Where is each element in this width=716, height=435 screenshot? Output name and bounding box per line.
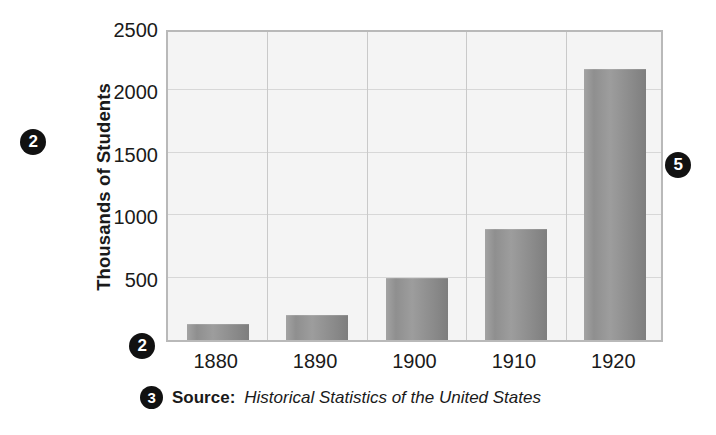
callout-badge-2-axis-title: 2 [20,129,46,155]
y-tick-1500: 1500 [94,143,158,166]
bar-1900 [386,278,448,340]
x-tick-1910: 1910 [492,350,537,373]
x-tick-1920: 1920 [591,350,636,373]
x-tick-1890: 1890 [293,350,338,373]
gridline-vertical [566,32,567,340]
gridline-vertical [267,32,268,340]
y-tick-500: 500 [94,268,158,291]
gridline-vertical [367,32,368,340]
callout-badge-5-plot-area: 5 [665,152,691,178]
bar-1920 [584,69,646,340]
x-tick-1900: 1900 [392,350,437,373]
y-tick-1000: 1000 [94,206,158,229]
y-tick-2000: 2000 [94,81,158,104]
gridline-vertical [466,32,467,340]
plot-area [166,30,663,342]
callout-badge-3-source: 3 [140,386,163,409]
source-label: Source: [172,388,235,408]
bar-chart-figure: 2 2 4 5 Thousands of Students 5001000150… [0,0,716,435]
y-axis-tick-labels: 5001000150020002500 [94,0,158,435]
source-note: 3 Source: Historical Statistics of the U… [140,386,541,409]
bar-1880 [187,324,249,340]
bar-1910 [485,229,547,340]
y-tick-2500: 2500 [94,19,158,42]
x-tick-1880: 1880 [193,350,238,373]
source-title: Historical Statistics of the United Stat… [244,388,541,408]
bar-1890 [286,315,348,340]
